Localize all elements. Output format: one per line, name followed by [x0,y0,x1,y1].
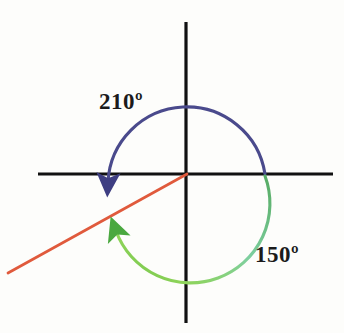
angle-label-150: 150º [255,243,299,266]
axes-group [38,22,333,323]
terminal-side-ray [8,174,187,273]
angle-label-210: 210º [99,90,143,113]
green-arc-path [116,176,270,283]
angle-diagram-figure: 210º 150º [0,0,344,333]
angle-diagram-canvas [0,0,344,333]
green-arc-150 [116,176,270,283]
